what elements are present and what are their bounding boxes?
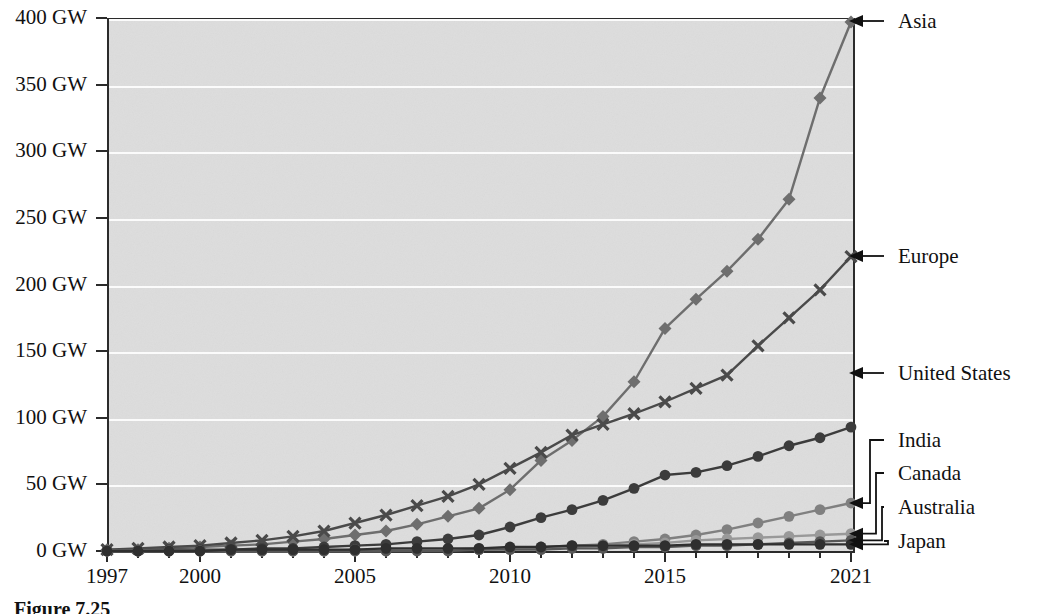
- gridline: [109, 19, 853, 21]
- gridline: [109, 352, 853, 354]
- figure-caption: Figure 7.25: [14, 598, 110, 614]
- callout-leader-line: [861, 440, 884, 503]
- x-axis-tick: [199, 551, 201, 562]
- x-axis-tick: [385, 551, 387, 558]
- x-axis-tick: [602, 551, 604, 558]
- x-axis-tick: [664, 551, 666, 562]
- x-axis-tick: [509, 551, 511, 562]
- x-axis-tick-label: 2005: [305, 565, 405, 588]
- callout-leader-line: [861, 541, 888, 544]
- gridline: [109, 419, 853, 421]
- callout-label-asia: Asia: [898, 10, 937, 33]
- y-axis-tick-label: 150 GW: [0, 340, 87, 361]
- y-axis-tick-label: 0 GW: [0, 540, 87, 561]
- callout-label-india: India: [898, 429, 941, 452]
- y-axis-tick-label: 200 GW: [0, 274, 87, 295]
- x-axis-tick: [540, 551, 542, 558]
- x-axis-tick-label: 2015: [615, 565, 715, 588]
- x-axis-tick: [819, 551, 821, 558]
- x-axis-tick: [137, 551, 139, 558]
- gridline: [109, 219, 853, 221]
- callout-label-canada: Canada: [898, 462, 961, 485]
- y-axis-tick: [96, 84, 107, 86]
- callout-label-australia: Australia: [898, 496, 975, 519]
- x-axis-tick: [788, 551, 790, 558]
- y-axis-tick-label: 300 GW: [0, 140, 87, 161]
- x-axis-tick: [323, 551, 325, 558]
- x-axis-tick-label: 2010: [460, 565, 560, 588]
- callout-leader-line: [861, 507, 884, 540]
- x-axis-tick-label: 2000: [150, 565, 250, 588]
- x-axis-tick-label: 2021: [801, 565, 901, 588]
- y-axis-tick: [96, 217, 107, 219]
- x-axis-tick: [292, 551, 294, 558]
- x-axis-tick: [447, 551, 449, 558]
- y-axis-tick-label: 400 GW: [0, 7, 87, 28]
- gridline: [109, 286, 853, 288]
- y-axis-tick: [96, 350, 107, 352]
- x-axis-tick: [478, 551, 480, 558]
- x-axis-tick: [633, 551, 635, 558]
- y-axis-tick-label: 350 GW: [0, 74, 87, 95]
- x-axis-tick: [354, 551, 356, 562]
- y-axis-tick-label: 100 GW: [0, 407, 87, 428]
- y-axis-tick: [96, 483, 107, 485]
- y-axis-tick: [96, 284, 107, 286]
- x-axis-tick: [757, 551, 759, 558]
- y-axis-tick-label: 250 GW: [0, 207, 87, 228]
- x-axis-tick: [230, 551, 232, 558]
- gridline: [109, 86, 853, 88]
- x-axis-tick: [695, 551, 697, 558]
- callout-leader-line: [861, 473, 884, 534]
- x-axis-tick: [571, 551, 573, 558]
- gridline: [109, 485, 853, 487]
- y-axis-tick: [96, 150, 107, 152]
- x-axis-tick: [416, 551, 418, 558]
- callout-label-united-states: United States: [898, 362, 1011, 385]
- x-axis-line: [107, 551, 853, 553]
- x-axis-tick: [168, 551, 170, 558]
- chart-plot-area: [107, 18, 855, 553]
- callout-label-japan: Japan: [898, 530, 946, 553]
- y-axis-tick-label: 50 GW: [0, 473, 87, 494]
- x-axis-tick: [106, 551, 108, 562]
- x-axis-tick: [261, 551, 263, 558]
- y-axis-tick: [96, 417, 107, 419]
- gridline: [109, 152, 853, 154]
- x-axis-tick-label: 1997: [57, 565, 157, 588]
- y-axis-tick: [96, 17, 107, 19]
- x-axis-tick: [726, 551, 728, 558]
- callout-label-europe: Europe: [898, 245, 959, 268]
- figure-container: 0 GW50 GW100 GW150 GW200 GW250 GW300 GW3…: [0, 0, 1042, 614]
- x-axis-tick: [850, 551, 852, 562]
